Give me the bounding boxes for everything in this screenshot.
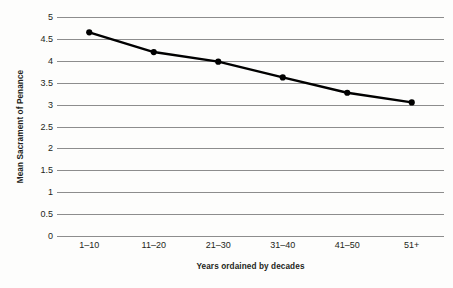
data-point-marker <box>151 49 157 55</box>
y-tick-label: 1 <box>48 187 53 197</box>
x-axis-title: Years ordained by decades <box>57 262 444 271</box>
gridline <box>57 236 444 237</box>
x-axis-tick-labels: 1–1011–2021–3031–4041–5051+ <box>57 240 444 256</box>
y-tick-label: 5 <box>48 12 53 22</box>
y-tick-label: 4.5 <box>40 34 53 44</box>
y-tick-label: 3.5 <box>40 78 53 88</box>
y-axis-title-label: Mean Sacrament of Penance <box>17 69 26 183</box>
y-tick-label: 2 <box>48 143 53 153</box>
x-tick-label: 41–50 <box>335 240 360 250</box>
data-point-marker <box>409 99 415 105</box>
y-tick-label: 3 <box>48 100 53 110</box>
data-point-marker <box>344 90 350 96</box>
series-line <box>57 17 444 236</box>
x-tick-label: 21–30 <box>206 240 231 250</box>
data-point-marker <box>280 74 286 80</box>
y-tick-label: 0 <box>48 231 53 241</box>
line-chart: Mean Sacrament of Penance 54.543.532.521… <box>0 0 453 288</box>
x-tick-label: 11–20 <box>142 240 166 250</box>
y-axis-tick-labels: 54.543.532.521.510.50 <box>26 17 53 236</box>
y-tick-label: 1.5 <box>40 165 53 175</box>
x-tick-label: 1–10 <box>79 240 99 250</box>
y-tick-label: 4 <box>48 56 53 66</box>
data-point-marker <box>86 29 92 35</box>
series-polyline <box>89 32 412 102</box>
plot-area <box>57 17 444 236</box>
data-point-marker <box>215 59 221 65</box>
x-tick-label: 31–40 <box>270 240 295 250</box>
y-tick-label: 0.5 <box>40 209 53 219</box>
y-tick-label: 2.5 <box>40 122 53 132</box>
x-tick-label: 51+ <box>404 240 419 250</box>
